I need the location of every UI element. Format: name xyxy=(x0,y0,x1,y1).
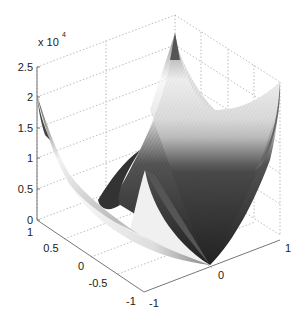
x-tick: -1 xyxy=(149,297,159,309)
y-tick: 0 xyxy=(78,260,84,272)
z-tick: 2 xyxy=(27,91,33,103)
y-tick: 0.5 xyxy=(43,242,58,254)
y-tick-labels: 1 0.5 0 -0.5 -1 xyxy=(27,226,136,307)
z-tick: 2.5 xyxy=(18,61,33,73)
z-tick-labels: 2.5 2 1.5 1 0.5 0 xyxy=(18,61,33,226)
z-multiplier-exponent: 4 xyxy=(62,31,66,38)
y-tick: -0.5 xyxy=(89,277,108,289)
surface xyxy=(37,33,280,265)
z-multiplier: x 10 xyxy=(38,36,59,48)
z-tick: 0.5 xyxy=(18,183,33,195)
x-tick: 1 xyxy=(285,242,291,254)
z-tick: 1 xyxy=(27,152,33,164)
x-tick: 0 xyxy=(218,269,224,281)
z-tick: 1.5 xyxy=(18,122,33,134)
z-tick: 0 xyxy=(27,214,33,226)
y-tick: -1 xyxy=(126,295,136,307)
y-tick: 1 xyxy=(27,226,33,238)
surface-plot: 2.5 2 1.5 1 0.5 0 x 10 4 1 0.5 0 -0.5 -1… xyxy=(0,0,304,323)
